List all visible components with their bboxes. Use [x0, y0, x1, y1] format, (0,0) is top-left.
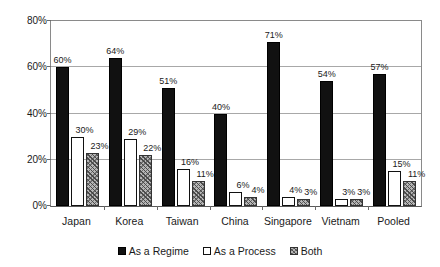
x-axis-tick [210, 206, 211, 210]
category-label-korea: Korea [103, 215, 156, 227]
bar-value-label: 40% [206, 103, 236, 112]
x-axis-tick [368, 206, 369, 210]
legend-swatch-icon [203, 247, 211, 255]
bar-group: 60%30%23% [51, 21, 104, 206]
bar-regime[interactable] [109, 58, 122, 206]
bar-regime[interactable] [320, 81, 333, 206]
bar-both[interactable] [192, 181, 205, 206]
bar-group: 64%29%22% [104, 21, 157, 206]
bar-value-label: 16% [175, 158, 205, 167]
bar-both[interactable] [350, 199, 363, 206]
legend-swatch-icon [290, 247, 298, 255]
bar-value-label: 64% [100, 47, 130, 56]
bar-process[interactable] [177, 169, 190, 206]
x-axis-tick [262, 206, 263, 210]
bar-regime[interactable] [267, 42, 280, 206]
bar-group: 40%6%4% [210, 21, 263, 206]
y-axis-label: 80% [5, 16, 47, 26]
bar-process[interactable] [388, 171, 401, 206]
bar-value-label: 11% [402, 170, 432, 179]
bar-regime[interactable] [373, 74, 386, 206]
bar-group: 57%15%11% [368, 21, 421, 206]
category-label-japan: Japan [50, 215, 103, 227]
plot-area: 0%20%40%60%80%60%30%23%64%29%22%51%16%11… [50, 20, 422, 207]
y-axis-label: 20% [5, 155, 47, 165]
bar-both[interactable] [403, 181, 416, 206]
bar-value-label: 51% [153, 77, 183, 86]
bar-both[interactable] [244, 197, 257, 206]
bar-value-label: 71% [259, 31, 289, 40]
category-label-vietnam: Vietnam [314, 215, 367, 227]
bar-value-label: 30% [69, 126, 99, 135]
legend-swatch-icon [118, 247, 126, 255]
y-axis-label: 40% [5, 109, 47, 119]
chart-legend: As a RegimeAs a ProcessBoth [0, 245, 440, 257]
bar-regime[interactable] [162, 88, 175, 206]
x-axis-tick [315, 206, 316, 210]
legend-item[interactable]: Both [290, 245, 323, 257]
category-label-pooled: Pooled [367, 215, 420, 227]
bar-chart: 0%20%40%60%80%60%30%23%64%29%22%51%16%11… [0, 0, 440, 267]
bar-process[interactable] [71, 137, 84, 206]
bar-regime[interactable] [56, 67, 69, 206]
y-axis-label: 0% [5, 201, 47, 211]
x-axis-tick [104, 206, 105, 210]
bar-regime[interactable] [214, 114, 227, 207]
bar-group: 71%4%3% [262, 21, 315, 206]
legend-label: Both [301, 245, 323, 257]
bar-group: 54%3%3% [315, 21, 368, 206]
bar-both[interactable] [139, 155, 152, 206]
bar-value-label: 54% [312, 70, 342, 79]
bar-process[interactable] [282, 197, 295, 206]
bar-both[interactable] [297, 199, 310, 206]
bar-value-label: 60% [47, 56, 77, 65]
bar-process[interactable] [124, 139, 137, 206]
category-label-taiwan: Taiwan [156, 215, 209, 227]
y-axis-label: 60% [5, 62, 47, 72]
legend-item[interactable]: As a Process [203, 245, 276, 257]
category-label-china: China [209, 215, 262, 227]
bar-process[interactable] [229, 192, 242, 206]
category-label-singapore: Singapore [261, 215, 314, 227]
x-axis-tick [157, 206, 158, 210]
legend-label: As a Process [214, 245, 276, 257]
bar-value-label: 15% [387, 160, 417, 169]
bar-value-label: 29% [122, 128, 152, 137]
bar-value-label: 57% [365, 63, 395, 72]
bar-group: 51%16%11% [157, 21, 210, 206]
legend-label: As a Regime [129, 245, 189, 257]
legend-item[interactable]: As a Regime [118, 245, 189, 257]
bar-both[interactable] [86, 153, 99, 206]
bar-process[interactable] [335, 199, 348, 206]
